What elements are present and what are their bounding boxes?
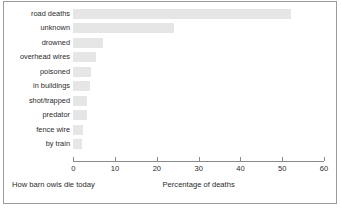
category-label: shot/trapped (6, 96, 70, 106)
x-tick (282, 157, 283, 161)
x-tick (73, 157, 74, 161)
category-label: drowned (6, 38, 70, 48)
bar-row (73, 139, 324, 149)
category-label: poisoned (6, 67, 70, 77)
x-tick (157, 157, 158, 161)
x-tick-label: 20 (153, 164, 161, 173)
x-tick-label: 50 (278, 164, 286, 173)
bar (73, 9, 290, 19)
x-tick (115, 157, 116, 161)
bar (73, 96, 87, 106)
x-axis-title: Percentage of deaths (73, 180, 324, 189)
bar-row (73, 9, 324, 19)
bar-row (73, 96, 324, 106)
bar (73, 23, 173, 33)
category-label: fence wire (6, 125, 70, 135)
x-tick (324, 157, 325, 161)
x-tick-label: 10 (111, 164, 119, 173)
category-label: by train (6, 139, 70, 149)
bar (73, 139, 82, 149)
bar (73, 110, 87, 120)
x-tick-label: 60 (320, 164, 328, 173)
category-label: unknown (6, 23, 70, 33)
category-label: road deaths (6, 9, 70, 19)
bar-row (73, 110, 324, 120)
category-label: in buildings (6, 81, 70, 91)
x-tick-label: 40 (236, 164, 244, 173)
bar-row (73, 125, 324, 135)
x-tick (199, 157, 200, 161)
plot-area (73, 9, 324, 157)
x-tick-label: 30 (194, 164, 202, 173)
bar-row (73, 23, 324, 33)
category-label: overhead wires (6, 52, 70, 62)
bar (73, 81, 90, 91)
bar (73, 67, 91, 77)
bar (73, 38, 102, 48)
bar-row (73, 81, 324, 91)
bar-row (73, 52, 324, 62)
bar-row (73, 38, 324, 48)
bar-row (73, 67, 324, 77)
x-tick (240, 157, 241, 161)
chart-figure: road deathsunknowndrownedoverhead wiresp… (0, 0, 341, 209)
bar (73, 52, 96, 62)
category-label: predator (6, 110, 70, 120)
bar (73, 125, 83, 135)
x-axis-line (73, 161, 324, 162)
x-tick-label: 0 (71, 164, 75, 173)
category-axis-labels: road deathsunknowndrownedoverhead wiresp… (6, 9, 70, 157)
